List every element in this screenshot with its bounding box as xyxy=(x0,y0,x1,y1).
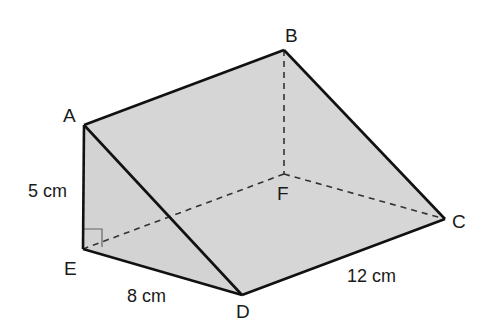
vertex-label-a: A xyxy=(63,105,76,126)
vertex-label-c: C xyxy=(452,211,466,232)
prism-diagram: A B C D E F 5 cm 8 cm 12 cm xyxy=(0,0,490,333)
vertex-label-d: D xyxy=(236,301,250,322)
vertex-label-f: F xyxy=(277,183,289,204)
vertex-label-e: E xyxy=(64,258,77,279)
edge-ea xyxy=(83,125,84,249)
dimension-dc: 12 cm xyxy=(347,266,396,286)
vertex-label-b: B xyxy=(285,25,298,46)
dimension-ed: 8 cm xyxy=(127,286,166,306)
dimension-ae: 5 cm xyxy=(28,181,67,201)
